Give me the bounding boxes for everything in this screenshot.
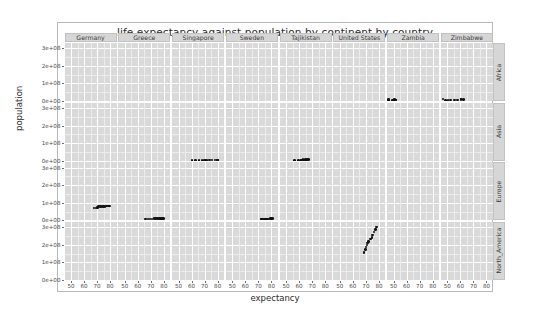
gridline-x — [245, 103, 246, 161]
x-tick-label: 50 — [67, 283, 74, 289]
gridline-x — [340, 162, 341, 220]
gridline-x-minor — [306, 162, 307, 220]
x-tick-label: 60 — [242, 283, 249, 289]
data-point — [364, 248, 367, 251]
gridline-x — [447, 43, 448, 101]
gridline-x-minor — [454, 43, 455, 101]
data-point — [371, 234, 374, 237]
gridline-x — [71, 162, 72, 220]
data-point — [162, 217, 165, 220]
gridline-x-minor — [306, 103, 307, 161]
gridline-x — [84, 103, 85, 161]
gridline-x-minor — [104, 103, 105, 161]
x-tick-mark — [394, 281, 395, 283]
gridline-x-minor — [293, 162, 294, 220]
gridline-x-minor — [346, 162, 347, 220]
y-tick-mark — [62, 48, 64, 49]
y-tick-mark — [62, 280, 64, 281]
data-point — [374, 228, 377, 231]
gridline-x — [125, 43, 126, 101]
y-tick-mark — [62, 66, 64, 67]
gridline-x-minor — [239, 103, 240, 161]
gridline-x — [366, 162, 367, 220]
gridline-x-minor — [144, 162, 145, 220]
gridline-x — [340, 43, 341, 101]
gridline-x — [407, 103, 408, 161]
facet-col-strip-singapore: Singapore — [172, 33, 224, 43]
gridline-x — [473, 43, 474, 101]
gridline-x-minor — [480, 103, 481, 161]
facet-panel — [441, 103, 493, 161]
gridline-x — [192, 222, 193, 280]
facet-panel — [226, 103, 278, 161]
gridline-x-minor — [131, 222, 132, 280]
y-tick-label: 3e+08 — [0, 105, 61, 111]
x-tick-mark — [179, 281, 180, 283]
gridline-x-minor — [413, 103, 414, 161]
gridline-x-minor — [293, 103, 294, 161]
gridline-x — [366, 43, 367, 101]
gridline-x — [433, 222, 434, 280]
x-tick-label: 80 — [322, 283, 329, 289]
gridline-x — [353, 103, 354, 161]
gridline-x — [192, 103, 193, 161]
gridline-x-minor — [454, 103, 455, 161]
gridline-x — [232, 222, 233, 280]
y-tick-mark — [62, 203, 64, 204]
gridline-x — [420, 222, 421, 280]
x-tick-mark — [447, 281, 448, 283]
facet-panel — [333, 222, 385, 280]
gridline-x-minor — [78, 162, 79, 220]
facet-panel — [333, 43, 385, 101]
facet-panel — [172, 43, 224, 101]
gridline-x — [325, 103, 326, 161]
gridline-x — [151, 43, 152, 101]
gridline-x-minor — [400, 162, 401, 220]
x-tick-label: 70 — [309, 283, 316, 289]
gridline-x — [407, 162, 408, 220]
gridline-x — [379, 162, 380, 220]
data-point — [271, 217, 274, 220]
x-tick-label: 70 — [416, 283, 423, 289]
gridline-x — [258, 162, 259, 220]
gridline-x — [192, 162, 193, 220]
gridline-x-minor — [91, 222, 92, 280]
x-tick-label: 80 — [268, 283, 275, 289]
gridline-x — [394, 43, 395, 101]
gridline-x-minor — [467, 103, 468, 161]
gridline-x-minor — [239, 222, 240, 280]
data-point — [387, 98, 390, 101]
gridline-x-minor — [293, 222, 294, 280]
gridline-x-minor — [144, 43, 145, 101]
x-tick-label: 70 — [201, 283, 208, 289]
gridline-x — [486, 222, 487, 280]
gridline-x — [420, 43, 421, 101]
x-tick-mark — [258, 281, 259, 283]
gridline-x — [110, 162, 111, 220]
gridline-x — [486, 103, 487, 161]
facet-panel — [226, 222, 278, 280]
gridline-x — [97, 103, 98, 161]
gridline-x-minor — [319, 222, 320, 280]
gridline-x — [192, 43, 193, 101]
gridline-x-minor — [480, 222, 481, 280]
x-tick-label: 80 — [483, 283, 490, 289]
gridline-x — [299, 222, 300, 280]
x-tick-label: 60 — [296, 283, 303, 289]
gridline-x — [179, 222, 180, 280]
gridline-x — [97, 43, 98, 101]
data-point — [393, 98, 396, 101]
gridline-x — [407, 43, 408, 101]
gridline-x — [110, 103, 111, 161]
gridline-x-minor — [426, 162, 427, 220]
gridline-x — [164, 43, 165, 101]
x-tick-mark — [232, 281, 233, 283]
data-point — [456, 99, 459, 102]
x-tick-label: 60 — [457, 283, 464, 289]
x-tick-mark — [205, 281, 206, 283]
gridline-x-minor — [454, 162, 455, 220]
gridline-x — [325, 222, 326, 280]
gridline-x — [286, 43, 287, 101]
gridline-x — [179, 43, 180, 101]
gridline-x-minor — [131, 103, 132, 161]
